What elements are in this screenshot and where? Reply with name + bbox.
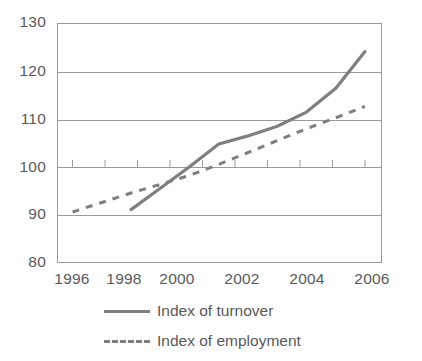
legend-item-index-of-turnover: Index of turnover [0,296,422,326]
x-axis-tick-label: 2000 [151,270,203,288]
legend-label: Index of turnover [157,302,273,320]
series-index-of-turnover [131,52,365,210]
y-axis-tick-label: 90 [0,205,46,223]
dashed-line-swatch-icon [104,340,150,343]
x-axis-tick-label: 2004 [281,270,333,288]
y-axis-tick-label: 110 [0,110,46,128]
chart-legend: Index of turnover Index of employment [0,296,422,356]
series-index-of-employment [73,106,366,212]
legend-item-index-of-employment: Index of employment [0,326,422,356]
plot-area [57,23,382,263]
y-axis-tick-label: 130 [0,13,46,31]
x-axis-tick-label: 2006 [346,270,398,288]
chart-canvas [58,24,381,262]
x-axis-tick-label: 1996 [46,270,98,288]
legend-label: Index of employment [157,332,301,350]
x-axis-tick-label: 1998 [98,270,150,288]
line-chart: 130 120 110 100 90 80 [0,0,422,361]
y-axis-tick-label: 100 [0,158,46,176]
y-axis-tick-label: 80 [0,253,46,271]
y-axis-tick-label: 120 [0,62,46,80]
solid-line-swatch-icon [104,310,150,313]
x-axis-tick-label: 2002 [216,270,268,288]
